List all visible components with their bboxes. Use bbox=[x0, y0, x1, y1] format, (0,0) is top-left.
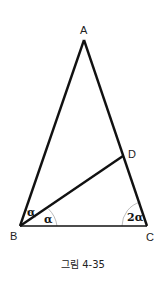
edge-AC bbox=[84, 40, 147, 226]
angle-label-BCA: 2α bbox=[127, 211, 144, 224]
vertex-label-A: A bbox=[80, 24, 88, 36]
angle-label-ABD: α bbox=[27, 206, 36, 219]
angle-label-DBC: α bbox=[44, 213, 53, 226]
figure-caption: 그림 4-35 bbox=[0, 256, 166, 271]
triangle-diagram: A B C D α α 2α bbox=[0, 0, 166, 281]
vertex-label-B: B bbox=[10, 230, 17, 242]
vertex-label-D: D bbox=[128, 148, 136, 160]
edge-AB bbox=[20, 40, 84, 226]
vertex-label-C: C bbox=[146, 231, 154, 243]
